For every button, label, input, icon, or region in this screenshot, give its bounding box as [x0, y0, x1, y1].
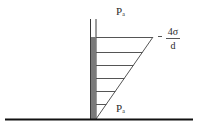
fraction-bar	[166, 38, 180, 39]
pressure-hatch-lines	[96, 38, 153, 105]
top-pressure-label: Pa	[116, 6, 125, 17]
pressure-subscript: a	[122, 108, 125, 114]
bottom-pressure-label: Pa	[116, 103, 125, 114]
liquid-column	[91, 37, 96, 119]
fraction-denominator: d	[166, 40, 180, 51]
pressure-drop-fraction: 4σ d	[166, 26, 180, 51]
fraction-numerator: 4σ	[166, 26, 180, 37]
pressure-subscript: a	[122, 11, 125, 17]
diagram-canvas	[0, 0, 202, 128]
minus-sign	[158, 36, 162, 37]
